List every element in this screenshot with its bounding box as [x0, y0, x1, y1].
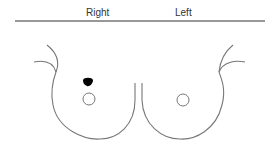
breast-diagram — [0, 0, 278, 149]
right-nipple — [83, 93, 95, 105]
left-breast-outline — [142, 45, 245, 139]
lesion-marker[interactable] — [83, 78, 93, 86]
left-nipple — [177, 94, 189, 106]
right-breast-outline — [34, 45, 135, 139]
